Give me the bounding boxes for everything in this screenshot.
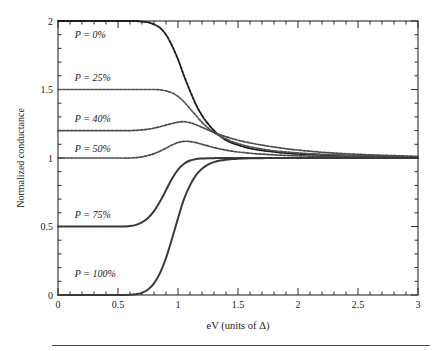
x-tick-label: 1 bbox=[176, 299, 181, 310]
x-tick-label: 0 bbox=[56, 299, 61, 310]
y-tick-label: 1.5 bbox=[41, 84, 54, 95]
figure-bottom-rule bbox=[52, 345, 430, 346]
series-curve-40pct bbox=[58, 122, 418, 157]
series-label: P = 25% bbox=[74, 72, 111, 83]
series-label: P = 0% bbox=[74, 29, 106, 40]
y-tick-label: 0 bbox=[48, 290, 53, 301]
series-label: P = 75% bbox=[74, 209, 111, 220]
series-annotations: P = 0%P = 25%P = 40%P = 50%P = 75%P = 10… bbox=[74, 29, 116, 278]
data-curves bbox=[58, 21, 418, 295]
y-tick-label: 0.5 bbox=[41, 221, 54, 232]
x-axis-label: eV (units of Δ) bbox=[207, 320, 270, 332]
conductance-chart: 00.511.522.5300.511.52eV (units of Δ)Nor… bbox=[0, 0, 444, 351]
x-tick-label: 2 bbox=[296, 299, 301, 310]
series-curve-75pct bbox=[58, 158, 418, 227]
tick-labels: 00.511.522.5300.511.52 bbox=[41, 16, 421, 311]
y-tick-label: 1 bbox=[48, 153, 53, 164]
y-tick-label: 2 bbox=[48, 16, 53, 27]
x-tick-label: 3 bbox=[416, 299, 421, 310]
series-label: P = 40% bbox=[74, 113, 111, 124]
x-tick-label: 2.5 bbox=[352, 299, 365, 310]
series-label: P = 50% bbox=[74, 143, 111, 154]
series-label: P = 100% bbox=[74, 268, 116, 279]
x-tick-label: 1.5 bbox=[232, 299, 245, 310]
series-curve-25pct bbox=[58, 89, 418, 156]
y-axis-label: Normalized conductance bbox=[15, 108, 26, 208]
figure-container: 00.511.522.5300.511.52eV (units of Δ)Nor… bbox=[0, 0, 444, 351]
x-tick-label: 0.5 bbox=[112, 299, 125, 310]
